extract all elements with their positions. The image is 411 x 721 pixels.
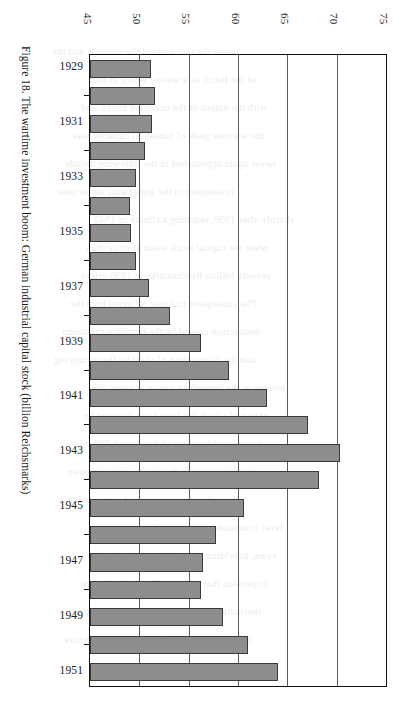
gridline [337,55,338,686]
x-axis-tick-label: 45 [82,13,94,25]
y-axis-tick [84,95,89,96]
bar [90,252,136,270]
y-axis-category-label: 1931 [49,115,83,127]
bar [90,169,136,187]
x-axis-tick-label: 60 [230,13,242,25]
gridline [287,55,288,686]
bar [90,416,308,434]
y-axis-category-label: 1937 [49,280,83,292]
bar [90,471,319,489]
bar [90,499,244,517]
gridline [238,55,239,686]
bar [90,197,130,215]
figure-page: Figure 18. The wartime investment boom: … [0,0,411,721]
bar [90,60,151,78]
x-axis-tick-label: 65 [279,13,291,25]
y-axis-tick [84,424,89,425]
bar [90,307,170,325]
bar [90,581,201,599]
y-axis-tick [84,479,89,480]
bar [90,142,145,160]
x-axis-tick-label: 75 [378,13,390,25]
bar [90,279,149,297]
x-axis-tick-label: 70 [328,13,340,25]
x-axis-tick-label: 50 [131,13,143,25]
y-axis-tick [84,260,89,261]
bar [90,553,203,571]
bar [90,389,267,407]
y-axis-tick [84,315,89,316]
bar [90,636,248,654]
bar [90,608,223,626]
y-axis-tick [84,589,89,590]
y-axis-category-label: 1939 [49,335,83,347]
y-axis-category-label: 1951 [49,664,83,676]
y-axis-category-label: 1947 [49,554,83,566]
y-axis-category-label: 1935 [49,225,83,237]
y-axis-category-label: 1943 [49,444,83,456]
y-axis-category-label: 1929 [49,60,83,72]
x-axis-tick-label: 55 [180,13,192,25]
bar [90,87,155,105]
y-axis-category-label: 1933 [49,170,83,182]
bar [90,526,216,544]
y-axis-tick [84,150,89,151]
y-axis-category-label: 1949 [49,609,83,621]
bar [90,361,229,379]
bar [90,115,152,133]
y-axis-category-label: 1945 [49,499,83,511]
figure-caption: Figure 18. The wartime investment boom: … [10,46,32,676]
bar [90,444,340,462]
bar [90,663,278,681]
y-axis-tick [84,370,89,371]
y-axis-tick [84,644,89,645]
bar [90,224,131,242]
y-axis-category-label: 1941 [49,389,83,401]
chart-plot-area [89,54,387,687]
y-axis-tick [84,534,89,535]
bar [90,334,201,352]
y-axis-tick [84,205,89,206]
